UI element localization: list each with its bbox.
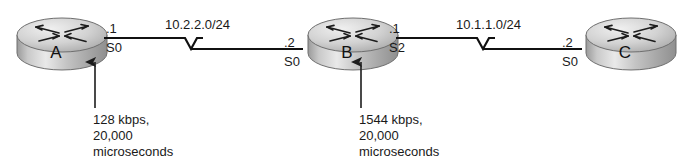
- router-c-ip-host-label: .2: [562, 36, 573, 49]
- router-a-interface-label: S0: [106, 41, 122, 54]
- annotation-line: 1544 kbps,: [359, 112, 439, 128]
- annotation-b-s2: 1544 kbps, 20,000 microseconds: [359, 112, 439, 160]
- router-b-right-ip-host-label: .1: [389, 22, 400, 35]
- router-c-name: C: [619, 43, 631, 62]
- router-a-name: A: [50, 43, 62, 62]
- annotation-line: 20,000: [359, 128, 439, 144]
- router-b-name: B: [341, 43, 352, 62]
- annotation-line: 128 kbps,: [93, 112, 173, 128]
- router-icon: [308, 18, 398, 70]
- router-b-left-ip-host-label: .2: [284, 36, 295, 49]
- serial-link-a-b: [104, 38, 303, 49]
- router-b-right-interface-label: S2: [389, 41, 405, 54]
- link-b-c-subnet-label: 10.1.1.0/24: [456, 18, 521, 31]
- annotation-line: 20,000: [93, 128, 173, 144]
- router-c-interface-label: S0: [562, 55, 578, 68]
- annotation-line: microseconds: [359, 144, 439, 160]
- router-a-ip-host-label: .1: [106, 22, 117, 35]
- router-icon: [17, 18, 107, 70]
- link-a-b-subnet-label: 10.2.2.0/24: [165, 18, 230, 31]
- serial-link-b-c: [396, 38, 582, 49]
- network-topology-diagram: A B C .1 S0 10.2.2.0/24 .2 S0 .1 S2 10.1…: [0, 0, 679, 166]
- router-b-left-interface-label: S0: [284, 55, 300, 68]
- annotation-a-s0: 128 kbps, 20,000 microseconds: [93, 112, 173, 160]
- annotation-line: microseconds: [93, 144, 173, 160]
